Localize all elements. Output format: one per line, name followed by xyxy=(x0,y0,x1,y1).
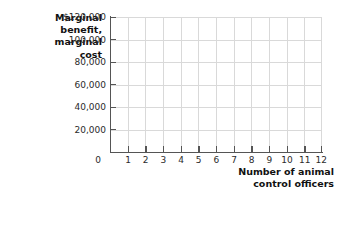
x-axis-title-line: control officers xyxy=(168,178,334,190)
x-axis-title-line: Number of animal xyxy=(168,166,334,178)
x-axis-tick-labels: 0 1 2 3 4 5 6 7 8 9 10 11 12 xyxy=(0,0,337,243)
x-axis-title: Number of animal control officers xyxy=(168,166,334,190)
x-tick-label: 0 xyxy=(88,155,108,165)
x-tick-label: 12 xyxy=(311,155,331,165)
chart-figure: Marginal benefit, marginal cost $120,000… xyxy=(0,0,337,243)
